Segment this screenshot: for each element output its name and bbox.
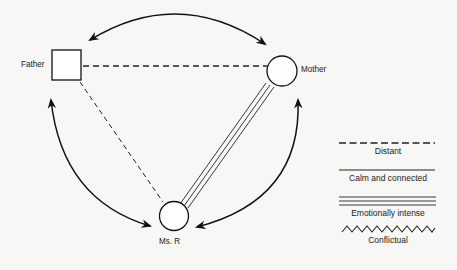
msr-label: Ms. R	[159, 236, 180, 246]
family-diagram	[0, 0, 457, 270]
arrow-father-msr	[51, 100, 150, 226]
arrow-father-mother	[90, 14, 265, 44]
legend-conflictual-line	[342, 226, 435, 232]
mother-label: Mother	[301, 64, 326, 74]
msr-node	[160, 202, 189, 231]
arrow-mother-msr	[197, 100, 298, 227]
father-label: Father	[21, 59, 44, 69]
mother-node	[267, 56, 297, 86]
edge-mother-msr-intense	[180, 83, 274, 208]
legend-intense-lines	[339, 197, 436, 205]
legend-distant-label: Distant	[338, 146, 438, 156]
legend-calm-label: Calm and connected	[338, 173, 438, 183]
father-node	[52, 50, 81, 80]
legend-conflictual-label: Conflictual	[338, 235, 438, 245]
edge-father-msr-distant	[80, 82, 163, 202]
legend-intense-label: Emotionally intense	[338, 208, 438, 218]
